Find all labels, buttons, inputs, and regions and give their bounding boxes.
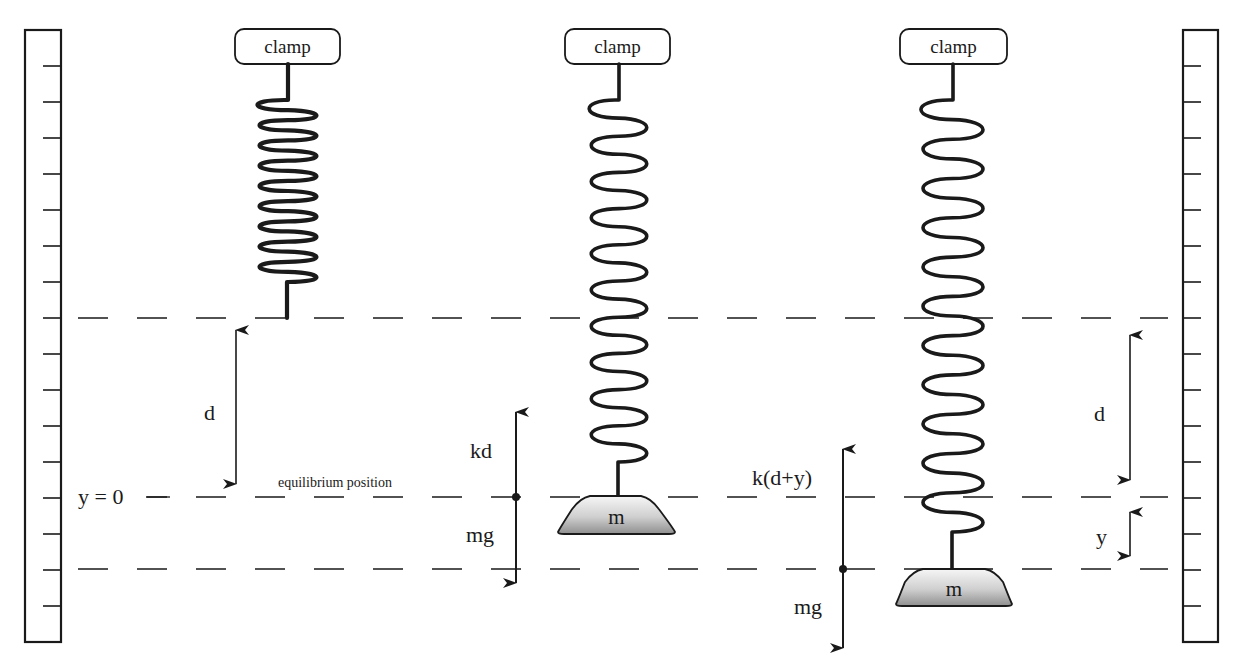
- right-ruler: [1183, 30, 1218, 642]
- force-arrows-equilibrium: [512, 412, 520, 583]
- label-y-right: y: [1096, 524, 1107, 549]
- ruler-body: [25, 30, 61, 642]
- force-point-dot: [512, 493, 520, 501]
- springs: clampclampmclampm: [235, 29, 1012, 606]
- clamp-label: clamp: [594, 36, 640, 57]
- force-point-dot: [839, 565, 847, 573]
- clamp-label: clamp: [264, 36, 310, 57]
- ruler-body: [1183, 30, 1218, 642]
- label-equilibrium-position: equilibrium position: [278, 475, 392, 490]
- label-d-right: d: [1094, 401, 1105, 426]
- spring-coil: [257, 64, 316, 318]
- label-d-left: d: [204, 400, 215, 425]
- mass-label: m: [608, 505, 624, 529]
- label-mg-2: mg: [794, 594, 822, 619]
- spring-assembly-equilibrium: clampm: [558, 29, 675, 534]
- spring-mass-diagram: clampclampmclampm d y = 0 equilibrium po…: [0, 0, 1238, 672]
- spring-coil: [589, 64, 647, 496]
- label-y-zero: y = 0: [78, 484, 123, 509]
- spring-coil: [921, 64, 983, 569]
- spring-assembly-unstretched: clamp: [235, 29, 340, 318]
- label-kd: kd: [470, 438, 492, 463]
- force-arrows-displaced: [839, 449, 847, 648]
- left-ruler: [25, 30, 61, 642]
- clamp-label: clamp: [930, 36, 976, 57]
- label-mg-1: mg: [466, 522, 494, 547]
- mass-label: m: [946, 577, 962, 601]
- label-k-d-plus-y: k(d+y): [752, 465, 812, 490]
